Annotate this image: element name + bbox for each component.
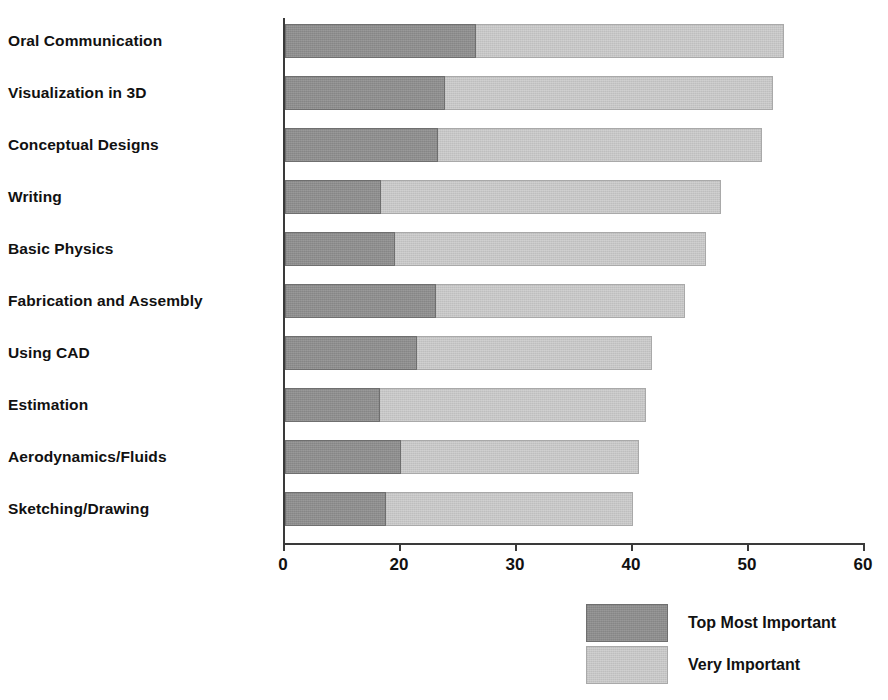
legend-swatch xyxy=(586,646,668,684)
bar-segment-top-most-important xyxy=(285,492,386,526)
bar-segment-top-most-important xyxy=(285,128,438,162)
legend-item: Very Important xyxy=(586,644,886,686)
category-label: Writing xyxy=(8,188,272,206)
legend-swatch xyxy=(586,604,668,642)
stacked-bar-chart: Oral CommunicationVisualization in 3DCon… xyxy=(0,0,888,700)
legend-label: Top Most Important xyxy=(688,614,836,632)
bar-segment-very-important xyxy=(381,180,721,214)
bar-segment-very-important xyxy=(476,24,783,58)
plot-area: 02030405060 xyxy=(283,18,863,543)
category-label: Basic Physics xyxy=(8,240,272,258)
category-label: Oral Communication xyxy=(8,32,272,50)
category-axis-labels: Oral CommunicationVisualization in 3DCon… xyxy=(0,18,272,538)
bar-segment-very-important xyxy=(436,284,685,318)
bar-segment-top-most-important xyxy=(285,232,395,266)
bar-segment-very-important xyxy=(386,492,633,526)
category-label: Estimation xyxy=(8,396,272,414)
bar-segment-top-most-important xyxy=(285,76,445,110)
bar-segment-top-most-important xyxy=(285,336,417,370)
bar-segment-very-important xyxy=(438,128,762,162)
bar-segment-top-most-important xyxy=(285,440,401,474)
bar-segment-very-important xyxy=(417,336,651,370)
x-axis-tick xyxy=(399,543,401,551)
x-axis-line xyxy=(283,543,864,545)
category-label: Visualization in 3D xyxy=(8,84,272,102)
x-axis-tick xyxy=(283,543,285,551)
bar-segment-very-important xyxy=(380,388,646,422)
legend-item: Top Most Important xyxy=(586,602,886,644)
x-axis-tick-label: 0 xyxy=(278,555,287,575)
x-axis-tick xyxy=(747,543,749,551)
category-label: Fabrication and Assembly xyxy=(8,292,272,310)
bar-segment-very-important xyxy=(395,232,706,266)
x-axis-tick xyxy=(515,543,517,551)
category-label: Aerodynamics/Fluids xyxy=(8,448,272,466)
x-axis-tick-label: 20 xyxy=(390,555,409,575)
category-label: Conceptual Designs xyxy=(8,136,272,154)
bar-segment-very-important xyxy=(401,440,639,474)
category-label: Sketching/Drawing xyxy=(8,500,272,518)
x-axis-tick xyxy=(863,543,865,551)
x-axis-tick-label: 40 xyxy=(622,555,641,575)
bar-segment-top-most-important xyxy=(285,284,436,318)
bar-segment-very-important xyxy=(445,76,773,110)
chart-legend: Top Most ImportantVery Important xyxy=(586,602,886,686)
bar-segment-top-most-important xyxy=(285,24,476,58)
bar-segment-top-most-important xyxy=(285,180,381,214)
x-axis-tick-label: 60 xyxy=(854,555,873,575)
x-axis-tick-label: 30 xyxy=(506,555,525,575)
x-axis-tick-label: 50 xyxy=(738,555,757,575)
category-label: Using CAD xyxy=(8,344,272,362)
bar-segment-top-most-important xyxy=(285,388,380,422)
x-axis-tick xyxy=(631,543,633,551)
legend-label: Very Important xyxy=(688,656,800,674)
